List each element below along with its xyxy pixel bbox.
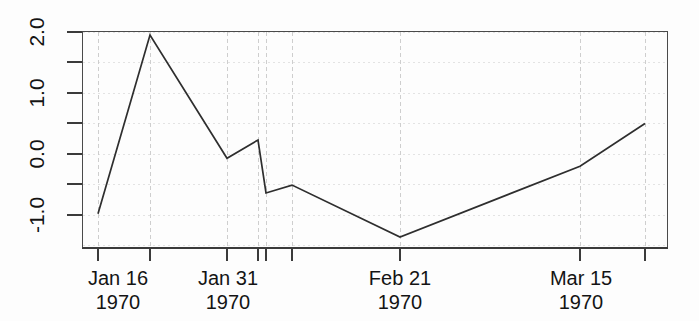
x-axis-labels: Jan 16 1970 Jan 31 1970 Feb 21 1970 Mar … <box>88 267 612 313</box>
line-chart-plot: 2.0 1.0 0.0 -1.0 Jan 16 1970 <box>0 0 699 321</box>
x-tick-label-jan31-date: Jan 31 <box>198 267 258 289</box>
x-tick-label-mar15-year: 1970 <box>559 291 604 313</box>
y-axis-ticks <box>67 32 82 215</box>
y-tick-label-1: 1.0 <box>25 78 48 107</box>
x-axis-ticks <box>98 248 645 261</box>
x-tick-label-jan16-date: Jan 16 <box>88 267 148 289</box>
x-axis <box>82 248 668 261</box>
horizontal-gridlines <box>83 32 667 245</box>
x-tick-label-jan31-year: 1970 <box>206 291 251 313</box>
y-tick-label-0: 0.0 <box>25 139 48 168</box>
series-line-1 <box>98 35 645 237</box>
x-tick-label-jan16-year: 1970 <box>96 291 141 313</box>
series-group <box>98 35 645 237</box>
x-tick-label-feb21-date: Feb 21 <box>369 267 431 289</box>
y-tick-label-neg1: -1.0 <box>25 197 48 233</box>
vertical-gridlines <box>98 32 645 247</box>
y-axis-labels: 2.0 1.0 0.0 -1.0 <box>25 17 48 233</box>
x-tick-label-mar15-date: Mar 15 <box>550 267 612 289</box>
x-tick-label-feb21-year: 1970 <box>378 291 423 313</box>
y-tick-label-2: 2.0 <box>25 17 48 46</box>
chart-figure: 2.0 1.0 0.0 -1.0 Jan 16 1970 <box>0 0 699 321</box>
